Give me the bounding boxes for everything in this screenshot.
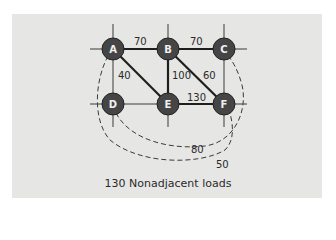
load-label-b-f: 60 [203, 70, 216, 81]
node-b: B [157, 38, 179, 60]
load-label-a-e: 40 [118, 70, 131, 81]
node-label: C [220, 44, 227, 55]
node-e: E [157, 93, 179, 115]
node-d: D [102, 93, 124, 115]
node-label: F [221, 99, 228, 110]
node-label: A [109, 44, 117, 55]
node-f: F [213, 93, 235, 115]
load-label-d-c: 80 [191, 144, 204, 155]
load-label-a-f: 50 [216, 159, 229, 170]
load-label-b-e: 100 [172, 70, 191, 81]
load-label-e-f: 130 [187, 92, 206, 103]
node-a: A [102, 38, 124, 60]
diagram-caption: 130 Nonadjacent loads [0, 177, 336, 190]
node-label: B [164, 44, 172, 55]
load-label-b-c: 70 [190, 36, 203, 47]
load-label-a-b: 70 [134, 36, 147, 47]
node-c: C [213, 38, 235, 60]
node-label: D [109, 99, 117, 110]
node-label: E [165, 99, 172, 110]
